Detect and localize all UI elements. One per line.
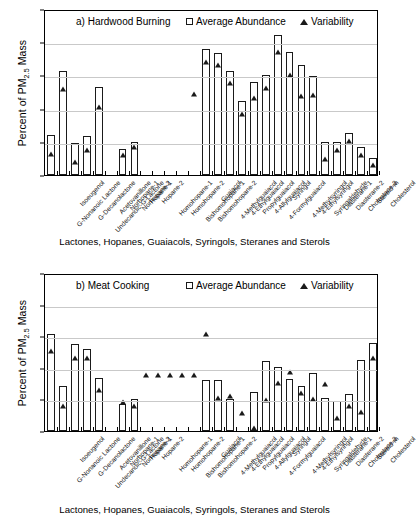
x-axis-tick bbox=[248, 427, 249, 431]
variability-marker bbox=[334, 147, 340, 152]
x-axis-tick bbox=[69, 427, 70, 431]
x-axis-tick bbox=[105, 427, 106, 431]
x-axis-tick bbox=[307, 171, 308, 175]
variability-marker bbox=[167, 373, 173, 378]
x-axis-tick bbox=[248, 171, 249, 175]
x-axis-tick bbox=[176, 171, 177, 175]
x-axis-tick bbox=[331, 171, 332, 175]
bar bbox=[286, 52, 294, 175]
x-axis-tick bbox=[355, 427, 356, 431]
legend-label-average-b: Average Abundance bbox=[196, 280, 286, 291]
bar-series-b bbox=[45, 275, 377, 431]
x-axis-tick bbox=[117, 171, 118, 175]
variability-marker bbox=[251, 426, 257, 431]
x-axis-tick bbox=[212, 171, 213, 175]
legend-variability-a: Variability bbox=[300, 16, 354, 27]
variability-marker bbox=[370, 355, 376, 360]
x-axis-tick bbox=[200, 427, 201, 431]
bar bbox=[83, 349, 91, 431]
variability-marker bbox=[275, 381, 281, 386]
variability-marker bbox=[298, 391, 304, 396]
variability-marker bbox=[72, 160, 78, 165]
x-axis-tick bbox=[331, 427, 332, 431]
variability-marker bbox=[96, 388, 102, 393]
variability-marker bbox=[143, 373, 149, 378]
x-axis-tick bbox=[129, 171, 130, 175]
variability-marker bbox=[310, 92, 316, 97]
gridline bbox=[45, 144, 377, 145]
variability-marker bbox=[358, 153, 364, 158]
bar bbox=[226, 399, 234, 431]
x-axis-tick bbox=[260, 171, 261, 175]
legend-label-average-a: Average Abundance bbox=[196, 16, 286, 27]
variability-marker bbox=[227, 393, 233, 398]
variability-marker bbox=[251, 95, 257, 100]
variability-marker bbox=[48, 349, 54, 354]
y-axis-tick-labels-a: 0.00010.0010.010.1110 bbox=[0, 0, 38, 196]
legend-variability-b: Variability bbox=[300, 280, 354, 291]
bar bbox=[309, 76, 317, 175]
x-axis-tick bbox=[296, 171, 297, 175]
bar bbox=[321, 398, 329, 431]
bar bbox=[298, 65, 306, 175]
variability-marker bbox=[155, 373, 161, 378]
y-axis-tick-labels-b: 0.00010.0010.010.1110 bbox=[0, 262, 38, 452]
x-axis-tick bbox=[140, 427, 141, 431]
bar bbox=[286, 379, 294, 431]
bar bbox=[274, 35, 282, 175]
variability-marker bbox=[334, 416, 340, 421]
gridline bbox=[45, 77, 377, 78]
bar bbox=[345, 394, 353, 431]
bar bbox=[95, 87, 103, 175]
variability-marker bbox=[84, 147, 90, 152]
variability-marker bbox=[370, 163, 376, 168]
bar bbox=[274, 367, 282, 431]
legend-label-variability-b: Variability bbox=[311, 280, 354, 291]
variability-marker bbox=[239, 411, 245, 416]
variability-marker bbox=[72, 355, 78, 360]
gridline bbox=[45, 44, 377, 45]
filled-triangle-icon bbox=[300, 19, 308, 25]
gridline bbox=[45, 338, 377, 339]
bar bbox=[95, 378, 103, 431]
x-axis-tick bbox=[212, 427, 213, 431]
x-axis-tick bbox=[188, 427, 189, 431]
x-axis-tick bbox=[81, 171, 82, 175]
x-axis-tick bbox=[57, 171, 58, 175]
variability-marker bbox=[227, 81, 233, 86]
plot-area-a bbox=[44, 10, 378, 176]
x-axis-tick bbox=[152, 427, 153, 431]
x-axis-tick bbox=[57, 427, 58, 431]
bar bbox=[119, 404, 127, 431]
x-axis-tick bbox=[319, 427, 320, 431]
bar bbox=[83, 136, 91, 175]
variability-marker bbox=[322, 382, 328, 387]
legend-average-abundance-a: Average Abundance bbox=[186, 16, 286, 27]
bar bbox=[226, 71, 234, 175]
bar-series-a bbox=[45, 11, 377, 175]
variability-marker bbox=[203, 59, 209, 64]
x-axis-tick bbox=[117, 427, 118, 431]
variability-marker bbox=[60, 86, 66, 91]
variability-marker bbox=[322, 156, 328, 161]
bar bbox=[202, 380, 210, 431]
gridline bbox=[45, 401, 377, 402]
variability-marker bbox=[358, 409, 364, 414]
x-axis-tick bbox=[236, 171, 237, 175]
x-axis-tick bbox=[69, 171, 70, 175]
variability-marker bbox=[215, 396, 221, 401]
variability-marker bbox=[346, 403, 352, 408]
x-axis-tick bbox=[188, 171, 189, 175]
variability-marker bbox=[179, 373, 185, 378]
panel-title-a: a) Hardwood Burning bbox=[76, 16, 171, 27]
x-axis-tick bbox=[93, 171, 94, 175]
legend-average-abundance-b: Average Abundance bbox=[186, 280, 286, 291]
x-axis-tick bbox=[105, 171, 106, 175]
legend-label-variability-a: Variability bbox=[311, 16, 354, 27]
variability-marker bbox=[120, 153, 126, 158]
chart-panel-b: Percent of PM2.5 Mass 0.00010.0010.010.1… bbox=[0, 262, 389, 518]
variability-marker bbox=[96, 105, 102, 110]
x-axis-tick bbox=[272, 171, 273, 175]
filled-triangle-icon bbox=[300, 283, 308, 289]
